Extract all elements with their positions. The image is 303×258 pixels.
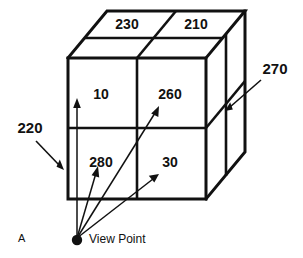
leader-arrowhead-220 [57, 159, 65, 170]
front-cell-label-10: 10 [93, 86, 109, 102]
cube-diagram: 230 210 10 260 280 30 220 270 View Point… [0, 0, 303, 258]
figure-container: 230 210 10 260 280 30 220 270 View Point… [0, 0, 303, 258]
reference-label-220: 220 [17, 119, 42, 136]
front-cell-label-280: 280 [89, 154, 113, 170]
top-cell-label-230: 230 [115, 16, 139, 32]
viewpoint-label: View Point [89, 232, 146, 246]
front-cell-label-260: 260 [158, 86, 182, 102]
leader-line-220 [36, 141, 60, 166]
top-cell-label-210: 210 [184, 16, 208, 32]
figure-letter-label: A [18, 232, 26, 244]
reference-label-270: 270 [262, 60, 287, 77]
front-cell-label-30: 30 [162, 154, 178, 170]
viewpoint-dot [72, 235, 82, 245]
